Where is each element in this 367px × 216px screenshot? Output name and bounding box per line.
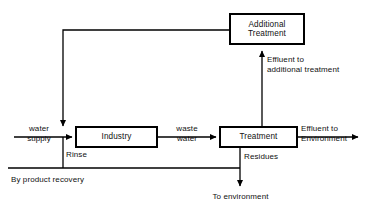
node-additional-treatment-label: Additional Treatment [231, 20, 303, 38]
label-effluent-to-environment: Effluent to Environment [301, 124, 363, 144]
label-water-supply: water supply [15, 124, 63, 144]
node-treatment-label: Treatment [221, 132, 296, 141]
flow-diagram: Additional Treatment Industry Treatment … [0, 0, 367, 216]
node-industry-label: Industry [77, 132, 156, 141]
node-industry[interactable]: Industry [75, 126, 158, 148]
label-to-environment: To environment [198, 192, 283, 202]
connector-recycle-to-supply [63, 30, 229, 126]
label-residues: Residues [244, 152, 304, 162]
label-by-product-recovery: By product recovery [11, 175, 141, 185]
label-rinse: Rinse [66, 150, 106, 160]
label-waste-water: waste water [163, 124, 211, 144]
label-effluent-to-additional-treatment: Effluent to additional treatment [267, 55, 363, 75]
node-additional-treatment[interactable]: Additional Treatment [229, 13, 305, 45]
node-treatment[interactable]: Treatment [219, 126, 298, 148]
